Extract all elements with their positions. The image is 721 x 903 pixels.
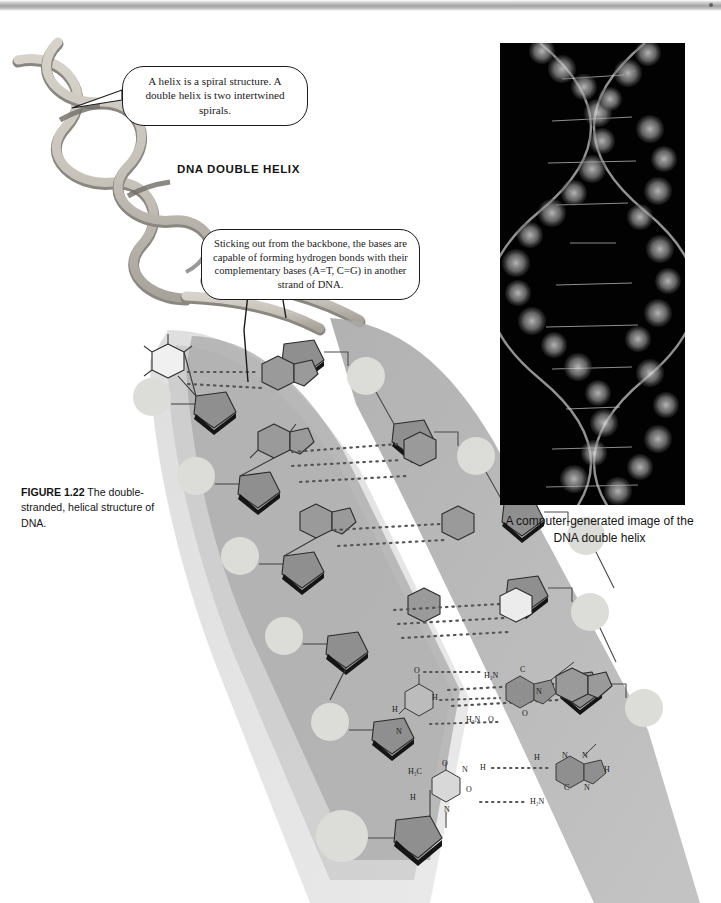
svg-text:H: H xyxy=(534,753,540,762)
svg-text:N: N xyxy=(536,687,542,696)
svg-text:N: N xyxy=(462,765,468,774)
svg-text:O: O xyxy=(414,666,420,675)
computer-generated-dna-image xyxy=(500,43,685,505)
callout-base-pairing: Sticking out from the backbone, the base… xyxy=(201,229,420,300)
svg-text:O: O xyxy=(466,785,472,794)
svg-text:N: N xyxy=(562,751,568,760)
photo-panel-caption: A computer-generated image of the DNA do… xyxy=(497,513,702,548)
svg-text:O: O xyxy=(522,709,528,718)
svg-text:C: C xyxy=(564,783,569,792)
svg-text:H: H xyxy=(480,763,486,772)
callout-helix-text: A helix is a spiral structure. A double … xyxy=(145,75,284,116)
svg-text:N: N xyxy=(444,805,450,814)
callout-bases-text: Sticking out from the backbone, the base… xyxy=(213,238,408,290)
svg-text:H: H xyxy=(604,765,610,774)
svg-text:H₂N: H₂N xyxy=(484,671,499,680)
figure-caption: FIGURE 1.22 The double-stranded, helical… xyxy=(21,485,173,531)
figure-page: O H N H₂N C N O H₂N O H xyxy=(0,0,721,903)
svg-text:H: H xyxy=(432,693,438,702)
svg-text:H₂N: H₂N xyxy=(530,797,545,806)
callout-helix-definition: A helix is a spiral structure. A double … xyxy=(122,66,308,126)
svg-text:N: N xyxy=(396,727,402,736)
svg-text:H₃C: H₃C xyxy=(408,767,422,776)
svg-text:H: H xyxy=(392,705,398,714)
figure-caption-label: FIGURE 1.22 xyxy=(21,486,85,498)
svg-text:H: H xyxy=(410,793,416,802)
svg-text:N: N xyxy=(584,783,590,792)
figure-heading: DNA DOUBLE HELIX xyxy=(177,163,300,175)
svg-text:C: C xyxy=(520,665,525,674)
svg-text:O: O xyxy=(442,759,448,768)
